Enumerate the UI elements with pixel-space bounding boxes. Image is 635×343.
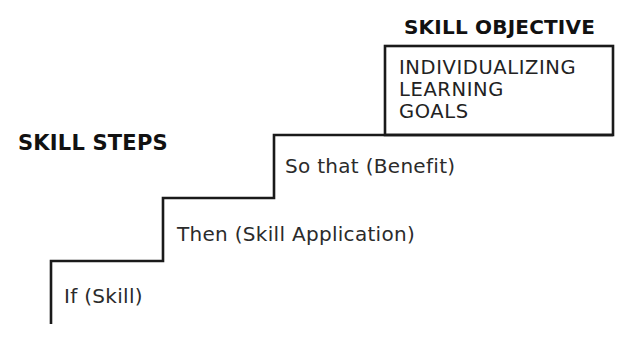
step-label-skill-application: Then (Skill Application): [177, 222, 415, 246]
skill-objective-heading: SKILL OBJECTIVE: [404, 15, 595, 39]
objective-line-1: INDIVIDUALIZING: [399, 57, 576, 79]
skill-objective-box: INDIVIDUALIZING LEARNING GOALS: [399, 57, 576, 123]
step-label-skill: If (Skill): [64, 284, 143, 308]
objective-line-3: GOALS: [399, 101, 576, 123]
skill-steps-heading: SKILL STEPS: [18, 131, 168, 155]
objective-line-2: LEARNING: [399, 79, 576, 101]
step-label-benefit: So that (Benefit): [285, 154, 455, 178]
